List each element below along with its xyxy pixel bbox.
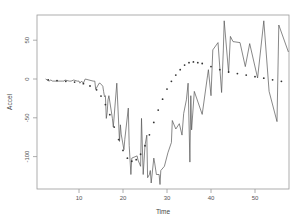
smoothed-point [127,157,129,159]
x-axis: 1020304050 [76,189,259,201]
x-tick-label: 40 [208,195,215,201]
x-axis-title: Time [156,208,171,215]
y-axis: 500-50-100 [24,36,37,162]
smoothed-point [118,139,120,141]
smoothed-point [105,104,107,106]
smoothed-point [245,74,247,76]
smoothed-point [188,62,190,64]
smoothed-point [131,160,133,162]
smoothed-point [162,98,164,100]
y-tick-label: -100 [24,150,30,163]
smoothed-point [272,79,274,81]
smoothed-point [144,145,146,147]
smoothed-point [210,66,212,68]
smoothed-point [184,64,186,66]
smoothed-point [166,88,168,90]
smoothed-point [263,77,265,79]
chart: 500-50-100 1020304050 Time Accel [0,0,306,224]
smoothed-point [113,126,115,128]
smoothed-point [74,81,76,83]
smoothed-point [89,85,91,87]
smoothed-point [254,76,256,78]
smoothed-point [201,63,203,65]
smoothed-point [171,80,173,82]
smoothed-point [100,95,102,97]
smoothed-point [83,83,85,85]
y-tick-label: 50 [24,36,30,43]
y-axis-title: Accel [6,94,13,110]
y-tick-label: -50 [24,113,30,122]
smoothed-point [149,134,151,136]
smoothed-point [56,80,58,82]
x-tick-label: 10 [76,195,83,201]
smoothed-point [47,79,49,81]
smoothed-point [65,80,67,82]
x-tick-label: 20 [120,195,127,201]
x-tick-label: 50 [252,195,259,201]
x-tick-label: 30 [164,195,171,201]
smoothed-point [175,74,177,76]
smoothed-point [140,153,142,155]
smoothed-point [281,80,283,82]
smoothed-point [237,73,239,75]
smoothed-point [193,61,195,63]
plot-frame [37,15,289,189]
smoothed-point [228,71,230,73]
smoothed-point [96,89,98,91]
observed-series-line [46,21,289,185]
smoothed-point [135,159,137,161]
smoothed-point [122,149,124,151]
smoothed-point [197,62,199,64]
smoothed-point [153,122,155,124]
smoothed-series-points [47,61,282,162]
smoothed-point [219,69,221,71]
smoothed-point [157,109,159,111]
smoothed-point [179,69,181,71]
smoothed-point [109,114,111,116]
y-tick-label: 0 [24,77,30,81]
